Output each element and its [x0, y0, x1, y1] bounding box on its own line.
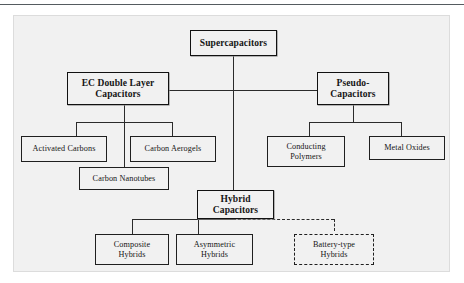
- connector-hybrid-to-asymmetric-hybrids: [198, 219, 199, 234]
- connector-pseudo-stem: [353, 104, 354, 122]
- node-ec-double-layer-capacitors[interactable]: EC Double Layer Capacitors: [67, 72, 169, 105]
- node-carbon-aerogels[interactable]: Carbon Aerogels: [130, 136, 216, 162]
- node-battery-type-hybrids[interactable]: Battery-type Hybrids: [294, 234, 374, 265]
- node-supercapacitors[interactable]: Supercapacitors: [190, 30, 277, 56]
- diagram-panel: Supercapacitors EC Double Layer Capacito…: [13, 15, 450, 272]
- node-activated-carbons[interactable]: Activated Carbons: [21, 136, 107, 162]
- connector-hybrid-to-battery-type-dashed: [233, 219, 334, 220]
- connector-hybrid-to-composite-hybrids: [132, 219, 133, 234]
- node-composite-hybrids[interactable]: Composite Hybrids: [95, 234, 169, 265]
- connector-root-trunk: [233, 56, 234, 190]
- node-carbon-nanotubes[interactable]: Carbon Nanotubes: [79, 167, 169, 190]
- connector-edl-to-carbon-nanotubes: [124, 122, 125, 167]
- node-pseudo-capacitors[interactable]: Pseudo- Capacitors: [317, 72, 389, 105]
- top-rule-divider: [0, 4, 464, 5]
- connector-edl-to-carbon-aerogels: [172, 122, 173, 136]
- connector-edl-stem: [124, 104, 125, 122]
- connector-pseudo-to-conducting-polymers: [309, 122, 310, 136]
- connector-edl-to-activated-carbons: [76, 122, 77, 136]
- node-asymmetric-hybrids[interactable]: Asymmetric Hybrids: [176, 234, 253, 265]
- figure-canvas: Supercapacitors EC Double Layer Capacito…: [0, 0, 464, 283]
- connector-pseudo-to-metal-oxides: [401, 122, 402, 136]
- connector-pseudo-children-bar: [309, 122, 401, 123]
- connector-hybrid-children-bar: [132, 219, 234, 220]
- node-metal-oxides[interactable]: Metal Oxides: [369, 136, 445, 160]
- connector-battery-type-drop-dashed: [334, 219, 335, 231]
- node-conducting-polymers[interactable]: Conducting Polymers: [267, 136, 345, 167]
- node-hybrid-capacitors[interactable]: Hybrid Capacitors: [197, 190, 274, 219]
